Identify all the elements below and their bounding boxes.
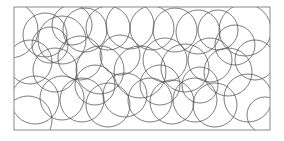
circle xyxy=(224,74,272,122)
circle xyxy=(193,83,237,127)
circle xyxy=(188,38,232,82)
figure-canvas xyxy=(0,0,284,141)
circle xyxy=(140,65,180,105)
circle-packing-figure xyxy=(0,0,284,141)
circle xyxy=(198,10,238,50)
circle xyxy=(86,6,130,50)
circle xyxy=(40,76,84,120)
circle xyxy=(153,8,197,52)
circle xyxy=(182,67,218,103)
circle xyxy=(4,96,52,141)
circles-group xyxy=(0,1,283,141)
circle xyxy=(38,16,86,64)
circle xyxy=(58,36,102,80)
